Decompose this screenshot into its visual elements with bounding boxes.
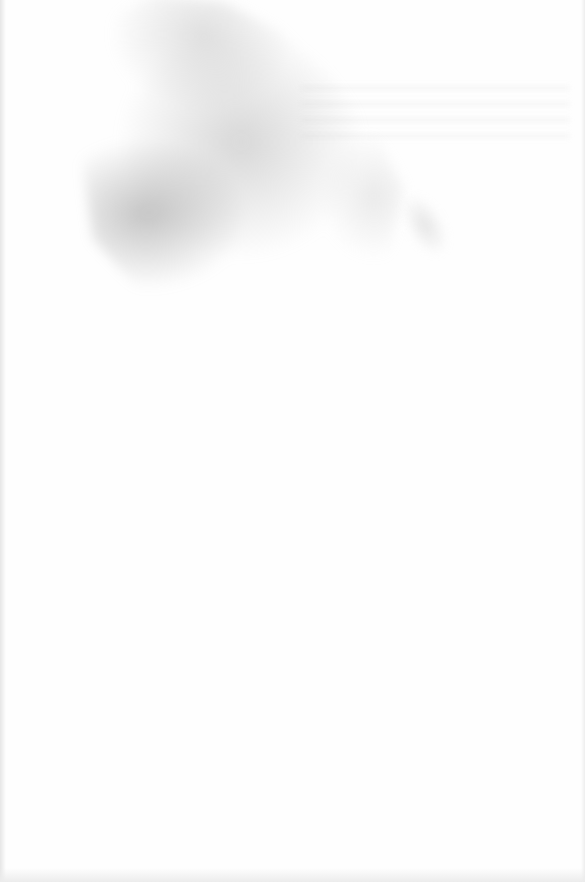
- page-bottom-edge: [0, 868, 585, 882]
- page-right-edge: [581, 0, 585, 882]
- grey-stain-core: [70, 0, 450, 340]
- scanned-page: [0, 0, 585, 882]
- page-left-edge: [0, 0, 6, 882]
- grey-stain: [70, 0, 450, 340]
